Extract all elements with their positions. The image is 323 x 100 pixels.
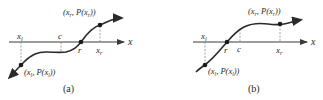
tick-label-xl: xl bbox=[200, 31, 207, 42]
tick-label-c: c bbox=[237, 44, 241, 54]
point-label-low: (xl, P(xl)) bbox=[208, 66, 240, 77]
polynomial-curve bbox=[196, 20, 300, 72]
axis-label-x: x bbox=[127, 36, 133, 47]
tick-label-xr: xr bbox=[95, 45, 103, 56]
point-xl bbox=[19, 63, 24, 68]
point-xl bbox=[203, 63, 208, 68]
tick-label-r: r bbox=[224, 45, 228, 55]
caption-b: (b) bbox=[248, 83, 260, 95]
axis-label-x: x bbox=[310, 36, 316, 47]
tick-label-c: c bbox=[58, 31, 62, 41]
panel-a: x xl c r xr (xl, P(xl)) (xr, P(xr)) (a) bbox=[9, 7, 133, 95]
point-xr bbox=[278, 22, 283, 27]
tick-label-r: r bbox=[78, 45, 82, 55]
panel-b: x xl r c xr (xl, P(xl)) (xr, P(xr)) (b) bbox=[193, 6, 316, 95]
point-r bbox=[79, 40, 84, 45]
tick-label-xr: xr bbox=[275, 45, 283, 56]
caption-a: (a) bbox=[63, 83, 74, 95]
bracketing-diagram: x xl c r xr (xl, P(xl)) (xr, P(xr)) (a) … bbox=[0, 0, 323, 100]
point-label-high: (xr, P(xr)) bbox=[63, 7, 96, 18]
tick-label-xl: xl bbox=[16, 31, 23, 42]
point-label-low: (xl, P(xl)) bbox=[24, 67, 56, 78]
point-label-high: (xr, P(xr)) bbox=[248, 6, 281, 17]
point-xr bbox=[98, 23, 103, 28]
point-r bbox=[225, 40, 230, 45]
